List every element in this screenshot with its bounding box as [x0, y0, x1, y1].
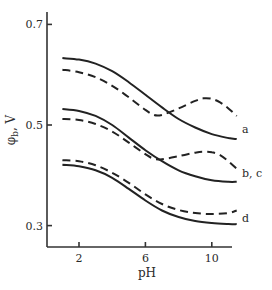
curve-label: a	[242, 123, 249, 136]
curve-label: b, c	[242, 167, 262, 180]
y-axis-label-symbol: φ	[4, 137, 18, 145]
curve-bc-dashed	[62, 119, 236, 169]
x-tick-label: 2	[76, 252, 83, 265]
x-tick-label: 6	[142, 252, 149, 265]
curve-labels: ab, cd	[242, 123, 262, 225]
ticks: 0.30.50.72610	[26, 18, 219, 265]
chart: 0.30.50.72610 ab, cd pH φb, V	[0, 0, 272, 290]
curve-bc-solid	[62, 109, 236, 182]
curve-label: d	[242, 212, 249, 225]
axes	[47, 12, 232, 247]
y-tick-label: 0.3	[26, 220, 44, 233]
y-tick-label: 0.7	[26, 18, 44, 31]
y-axis-label: φb, V	[4, 114, 20, 145]
curves	[62, 58, 236, 224]
curve-a-dashed	[62, 70, 236, 116]
x-tick-label: 10	[205, 252, 219, 265]
curve-d-solid	[62, 165, 236, 224]
y-axis-label-unit: , V	[4, 114, 18, 131]
x-axis-label: pH	[138, 266, 156, 280]
y-tick-label: 0.5	[26, 119, 44, 132]
